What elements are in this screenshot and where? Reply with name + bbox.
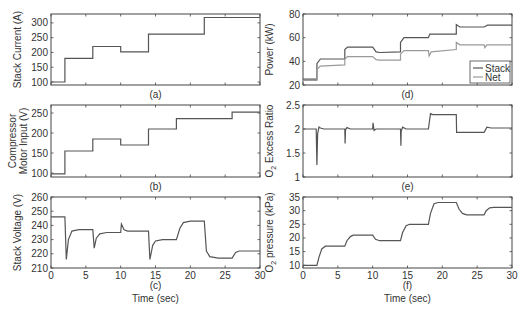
y-tick-label: 2 xyxy=(294,124,300,135)
y-tick-label: 300 xyxy=(31,17,48,28)
y-tick-label: 1.5 xyxy=(286,148,300,159)
axes-box xyxy=(51,14,260,85)
y-tick-label: 40 xyxy=(289,56,301,67)
legend: StackNet xyxy=(470,61,511,83)
series-line-o2-pressure xyxy=(303,203,512,266)
y-tick-label: 10 xyxy=(289,260,301,271)
y-tick-label: 60 xyxy=(289,32,301,43)
y-axis-label: Stack Voltage (V) xyxy=(12,194,23,271)
x-tick-label: 25 xyxy=(472,270,484,281)
y-tick-label: 30 xyxy=(289,205,301,216)
y-tick-label: 230 xyxy=(31,234,48,245)
x-tick-label: 10 xyxy=(115,270,127,281)
series-line-stack-voltage xyxy=(51,217,260,260)
x-tick-label: 30 xyxy=(506,270,518,281)
y-tick-label: 220 xyxy=(31,248,48,259)
y-tick-label: 1 xyxy=(294,172,300,183)
y-tick-label: 200 xyxy=(31,47,48,58)
y-tick-label: 2.5 xyxy=(286,100,300,111)
x-tick-label: 20 xyxy=(437,270,449,281)
y-tick-label: 100 xyxy=(31,77,48,88)
y-tick-label: 210 xyxy=(31,263,48,274)
x-tick-label: 5 xyxy=(335,270,341,281)
x-tick-label: 20 xyxy=(185,270,197,281)
x-tick-label: 0 xyxy=(48,270,54,281)
panel-c: 051015202530210220230240250260Stack Volt… xyxy=(12,192,266,305)
y-tick-label: 150 xyxy=(31,62,48,73)
panel-caption: (b) xyxy=(149,181,161,192)
y-tick-label: 200 xyxy=(31,128,48,139)
y-axis-label: Power (kW) xyxy=(264,23,275,75)
y-tick-label: 35 xyxy=(289,192,301,203)
axes-box xyxy=(51,105,260,177)
series-line-compressor-motor-input xyxy=(51,112,260,174)
series-line-stack-current xyxy=(51,18,260,83)
y-tick-label: 80 xyxy=(289,9,301,20)
axes-box xyxy=(303,197,512,268)
y-tick-label: 260 xyxy=(31,192,48,203)
y-axis-label: O2 Excess Ratio xyxy=(264,104,277,177)
y-tick-label: 250 xyxy=(31,108,48,119)
panel-d: 20406080Power (kW)StackNet(d) xyxy=(264,9,512,101)
y-tick-label: 20 xyxy=(289,80,301,91)
y-axis-label: CompressorMotor Input (V) xyxy=(7,108,29,175)
panel-caption: (a) xyxy=(149,89,161,100)
y-tick-label: 240 xyxy=(31,220,48,231)
axes-box xyxy=(303,105,512,177)
panel-caption: (d) xyxy=(401,89,413,100)
series-line-o2-excess-ratio xyxy=(303,114,512,165)
y-tick-label: 15 xyxy=(289,246,301,257)
panel-caption: (c) xyxy=(150,280,162,291)
x-axis-label: Time (sec) xyxy=(384,293,431,304)
y-tick-label: 20 xyxy=(289,232,301,243)
panel-b: 100150200250CompressorMotor Input (V)(b) xyxy=(7,105,260,192)
x-axis-label: Time (sec) xyxy=(132,293,179,304)
y-tick-label: 150 xyxy=(31,148,48,159)
x-tick-label: 5 xyxy=(83,270,89,281)
figure-canvas: 100150200250300Stack Current (A)(a)10015… xyxy=(0,0,528,312)
x-tick-label: 0 xyxy=(300,270,306,281)
panel-e: 11.522.5O2 Excess Ratio(e) xyxy=(264,100,512,193)
panel-caption: (e) xyxy=(401,181,413,192)
panel-caption: (f) xyxy=(403,280,412,291)
y-tick-label: 250 xyxy=(31,32,48,43)
panel-a: 100150200250300Stack Current (A)(a) xyxy=(12,11,260,100)
x-tick-label: 25 xyxy=(220,270,232,281)
axes-box xyxy=(51,197,260,268)
x-tick-label: 10 xyxy=(367,270,379,281)
y-axis-label: O2 pressure (kPa) xyxy=(264,192,277,272)
y-tick-label: 100 xyxy=(31,168,48,179)
legend-entry: Net xyxy=(485,72,501,83)
y-axis-label: Stack Current (A) xyxy=(12,11,23,88)
y-tick-label: 250 xyxy=(31,206,48,217)
panel-f: 051015202530101520253035O2 pressure (kPa… xyxy=(264,192,518,305)
y-tick-label: 25 xyxy=(289,219,301,230)
